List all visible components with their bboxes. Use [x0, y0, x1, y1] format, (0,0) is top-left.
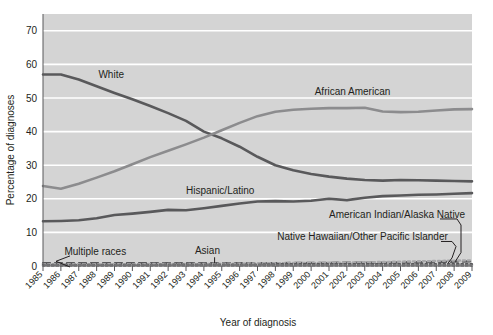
series-label-multiple-races: Multiple races [64, 246, 126, 257]
y-tick-label-60: 60 [26, 59, 38, 70]
x-axis-title: Year of diagnosis [220, 317, 296, 328]
y-tick-label-50: 50 [26, 93, 38, 104]
series-label-white: White [98, 69, 124, 80]
y-tick-label-40: 40 [26, 126, 38, 137]
plot-area-background [43, 14, 472, 266]
y-tick-label-10: 10 [26, 227, 38, 238]
race-ethnicity-diagnoses-line-chart: 010203040506070 198519861987198819891990… [0, 0, 493, 335]
y-axis-title: Percentage of diagnoses [5, 95, 16, 206]
y-tick-label-20: 20 [26, 193, 38, 204]
series-label-hispanic-latino: Hispanic/Latino [186, 185, 255, 196]
y-tick-label-30: 30 [26, 160, 38, 171]
series-label-native-hawaiian-other-pacific-islander: Native Hawaiian/Other Pacific Islander [277, 231, 448, 242]
series-label-african-american: African American [315, 86, 391, 97]
series-label-american-indian-alaska-native: American Indian/Alaska Native [329, 209, 466, 220]
y-tick-label-70: 70 [26, 25, 38, 36]
series-label-asian: Asian [195, 245, 220, 256]
chart-canvas: 010203040506070 198519861987198819891990… [0, 0, 493, 335]
plot-rect [43, 14, 472, 266]
